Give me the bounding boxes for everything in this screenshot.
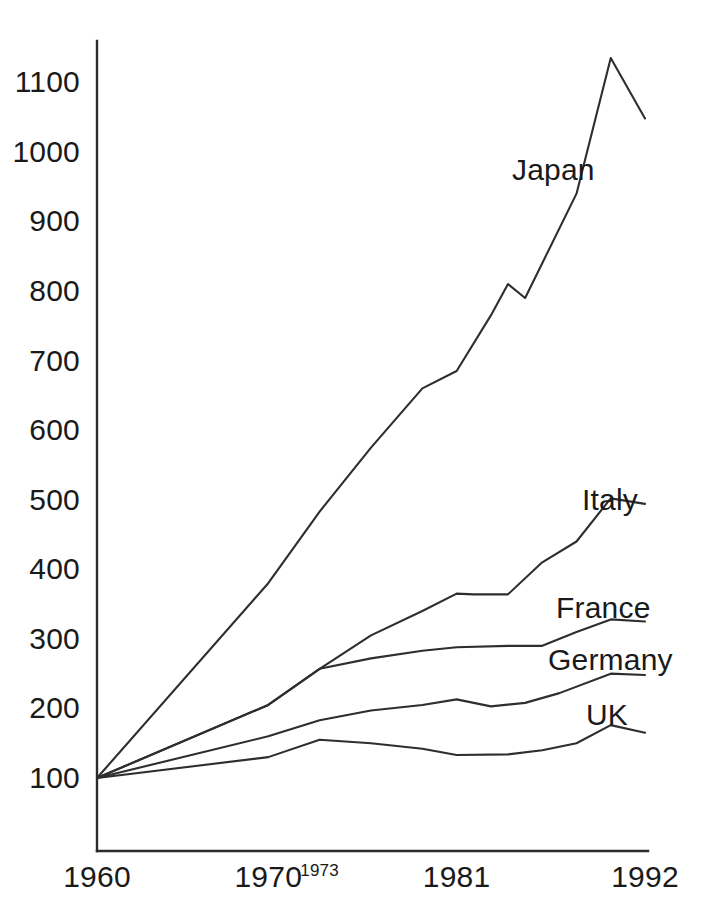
chart-canvas — [0, 0, 703, 923]
y-tick-label-200: 200 — [29, 693, 80, 723]
y-tick-label-500: 500 — [29, 485, 80, 515]
series-label-germany: Germany — [548, 645, 673, 675]
y-tick-label-1000: 1000 — [12, 137, 80, 167]
x-tick-label-1981: 1981 — [423, 862, 491, 892]
x-tick-label-1992: 1992 — [611, 862, 679, 892]
y-tick-label-900: 900 — [29, 206, 80, 236]
y-tick-label-100: 100 — [29, 763, 80, 793]
y-tick-label-700: 700 — [29, 346, 80, 376]
x-tick-label-1973: 1973 — [300, 862, 339, 879]
series-label-uk: UK — [586, 700, 628, 730]
x-tick-label-1970: 1970 — [234, 862, 302, 892]
line-chart: 11001000900800700600500400300200100 1960… — [0, 0, 703, 923]
series-line-uk — [97, 725, 645, 778]
y-tick-label-300: 300 — [29, 624, 80, 654]
y-tick-label-600: 600 — [29, 415, 80, 445]
series-line-germany — [97, 674, 645, 778]
y-tick-label-1100: 1100 — [15, 67, 80, 97]
series-label-italy: Italy — [582, 485, 638, 515]
y-tick-label-400: 400 — [29, 554, 80, 584]
series-label-japan: Japan — [512, 155, 595, 185]
x-tick-label-1960: 1960 — [63, 862, 131, 892]
y-tick-label-800: 800 — [29, 276, 80, 306]
series-label-france: France — [556, 593, 651, 623]
